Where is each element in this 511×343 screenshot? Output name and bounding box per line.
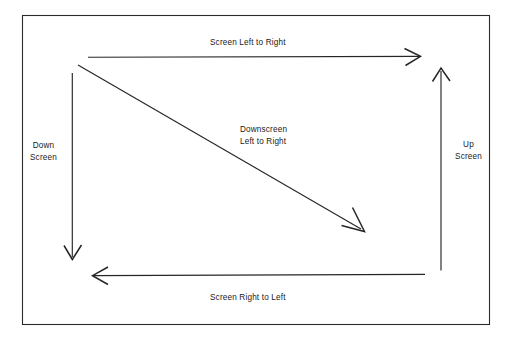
- label-down-screen: Down Screen: [30, 140, 57, 163]
- outer-frame-border: [23, 16, 490, 325]
- label-up-screen: Up Screen: [455, 139, 482, 162]
- label-screen-right-to-left: Screen Right to Left: [210, 292, 286, 304]
- label-downscreen-left-to-right: Downscreen Left to Right: [240, 124, 287, 147]
- diagram-canvas: Screen Left to Right Screen Right to Lef…: [0, 0, 511, 343]
- label-screen-left-to-right: Screen Left to Right: [210, 37, 286, 49]
